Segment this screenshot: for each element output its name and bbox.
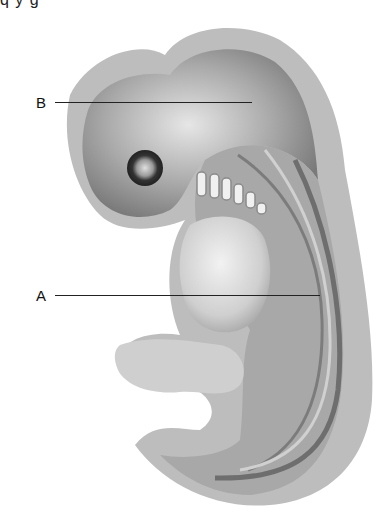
- leader-line-a: [55, 295, 320, 296]
- heart-bulge: [180, 217, 271, 333]
- embryo-illustration: [0, 0, 389, 521]
- eye: [127, 150, 163, 186]
- label-a: A: [36, 288, 46, 303]
- limb-bud: [115, 339, 244, 393]
- leader-line-b: [55, 102, 252, 103]
- label-b: B: [36, 95, 46, 110]
